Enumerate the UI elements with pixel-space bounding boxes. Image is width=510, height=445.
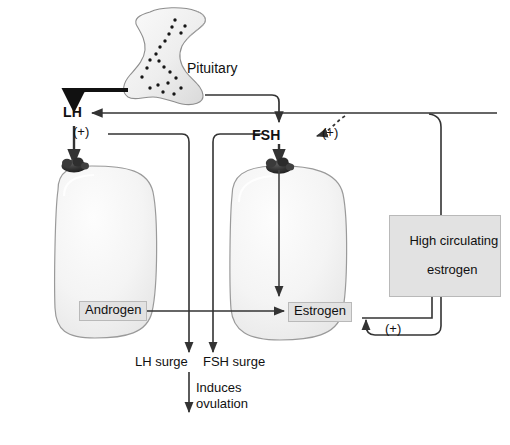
pituitary-label: Pituitary	[187, 61, 238, 77]
diagram-canvas: Pituitary LH (+) FSH (+) Androgen Estrog…	[0, 0, 510, 445]
fsh-label: FSH	[252, 128, 281, 144]
lh-surge-label: LH surge	[135, 355, 188, 370]
androgen-box: Androgen	[79, 301, 147, 321]
fsh-surge-label: FSH surge	[203, 355, 265, 370]
line-high-estrogen-up-to-rail	[429, 114, 441, 215]
estrogen-plus-sign: (+)	[385, 322, 401, 337]
ovulation-label: ovulation	[196, 397, 248, 412]
high-circulating-estrogen-line-2: estrogen	[427, 262, 478, 277]
induces-label: Induces	[196, 381, 242, 396]
arrow-pituitary-to-fsh	[205, 95, 279, 122]
estrogen-box: Estrogen	[288, 302, 352, 322]
lh-label: LH	[63, 105, 82, 121]
fsh-plus-sign: (+)	[322, 126, 338, 141]
high-circulating-estrogen-box: High circulating estrogen	[389, 215, 501, 297]
pituitary-gland-illustration	[124, 8, 206, 105]
arrow-pituitary-to-lh	[74, 90, 128, 108]
high-circulating-estrogen-line-1: High circulating	[409, 233, 498, 248]
lh-plus-sign: (+)	[73, 125, 89, 140]
